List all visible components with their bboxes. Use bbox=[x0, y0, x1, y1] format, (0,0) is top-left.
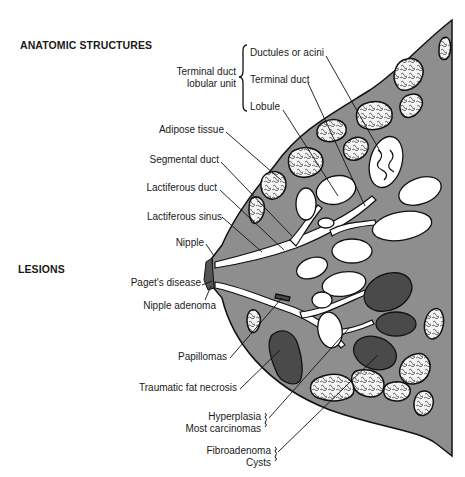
breast-diagram bbox=[0, 0, 465, 477]
tdlu-brace bbox=[239, 45, 247, 111]
lesion-braces bbox=[265, 413, 277, 461]
nipple bbox=[204, 258, 214, 290]
